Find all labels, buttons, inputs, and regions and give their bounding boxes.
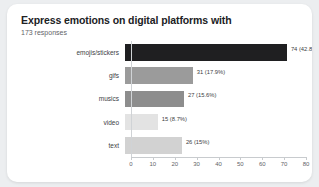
x-tick-label: 60 [259,161,266,167]
x-tick-label: 80 [303,161,310,167]
x-tick-label: 50 [237,161,244,167]
x-tick [262,157,263,160]
bar [125,44,287,61]
x-tick [175,157,176,160]
x-axis: 01020304050607080 [131,157,306,173]
bar-category-label: video [21,119,125,126]
bar-track: 26 (15%) [125,134,306,157]
bar-value-label: 74 (42.8%) [287,46,312,52]
bar-row: musics27 (15.6%) [21,87,306,110]
bar-value-label: 26 (15%) [182,139,210,145]
x-tick [219,157,220,160]
bar-category-label: text [21,142,125,149]
response-count: 173 responses [21,29,67,36]
bar [125,137,182,154]
x-tick-label: 30 [193,161,200,167]
bar-row: text26 (15%) [21,134,306,157]
bar-value-label: 31 (17.9%) [193,69,225,75]
x-tick [131,157,132,160]
x-tick-label: 40 [215,161,222,167]
bar-category-label: emojis/stickers [21,49,125,56]
bar-category-label: musics [21,95,125,102]
bar-row: video15 (8.7%) [21,111,306,134]
page-title: Express emotions on digital platforms wi… [21,14,232,26]
bar-rows: emojis/stickers74 (42.8%)gifs31 (17.9%)m… [21,41,306,157]
x-tick [284,157,285,160]
bar [125,91,184,108]
x-tick [306,157,307,160]
y-axis-line [131,41,132,157]
bar-track: 27 (15.6%) [125,87,306,110]
bar-value-label: 27 (15.6%) [184,92,216,98]
bar-track: 15 (8.7%) [125,111,306,134]
x-tick-label: 10 [150,161,157,167]
bar-value-label: 15 (8.7%) [158,116,187,122]
x-tick [197,157,198,160]
bar-chart: emojis/stickers74 (42.8%)gifs31 (17.9%)m… [21,41,306,173]
page-background: Express emotions on digital platforms wi… [0,0,319,187]
bar-track: 31 (17.9%) [125,64,306,87]
bar [125,67,193,84]
x-tick [153,157,154,160]
bar [125,114,158,131]
x-tick-label: 70 [281,161,288,167]
x-tick-label: 20 [171,161,178,167]
bar-track: 74 (42.8%) [125,41,306,64]
bar-row: gifs31 (17.9%) [21,64,306,87]
x-tick-label: 0 [129,161,132,167]
bar-category-label: gifs [21,72,125,79]
chart-card: Express emotions on digital platforms wi… [7,4,312,182]
x-tick [240,157,241,160]
bar-row: emojis/stickers74 (42.8%) [21,41,306,64]
